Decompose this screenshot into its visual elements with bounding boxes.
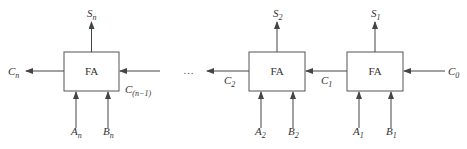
b-n-label: Bn (103, 125, 114, 140)
sum-2-label: S2 (273, 7, 283, 22)
carry-out-2-label: C2 (224, 74, 235, 89)
a-n-label: An (70, 125, 82, 140)
carry-in-0-label: C0 (448, 65, 459, 80)
b-2-label: B2 (288, 125, 299, 140)
full-adder-stage-2: FA S2 A2 B2 C2 (207, 7, 305, 140)
ripple-carry-adder-diagram: FA Sn An Bn Cn C(n−1) … FA S2 A2 B2 C2 F… (0, 0, 467, 149)
a-2-label: A2 (254, 125, 266, 140)
full-adder-stage-n: FA Sn An Bn Cn C(n−1) (8, 7, 160, 140)
fa-label: FA (85, 65, 98, 77)
full-adder-stage-1: FA S1 A1 B1 C1 C0 (306, 7, 459, 140)
carry-out-1-label: C1 (321, 74, 332, 89)
a-1-label: A1 (352, 125, 364, 140)
carry-in-n-label: C(n−1) (125, 83, 151, 98)
sum-1-label: S1 (371, 7, 381, 22)
carry-out-n-label: Cn (8, 65, 19, 80)
ellipsis: … (183, 64, 194, 76)
sum-n-label: Sn (87, 7, 97, 22)
b-1-label: B1 (386, 125, 397, 140)
fa-label: FA (270, 65, 283, 77)
fa-label: FA (368, 65, 381, 77)
